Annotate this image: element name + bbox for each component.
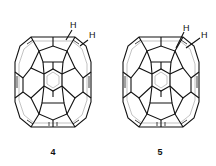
- hydrogen-label: H: [183, 23, 190, 33]
- compound-label-4: 4: [43, 147, 63, 157]
- hydrogen-label: H: [89, 30, 96, 40]
- fullerene-5: [123, 37, 199, 127]
- compound-label-5: 5: [150, 147, 170, 157]
- fullerene-4: [15, 37, 91, 127]
- figure: H H H H 4 5: [0, 0, 216, 166]
- hydrogen-label: H: [70, 20, 77, 30]
- hydrogen-label: H: [201, 30, 208, 40]
